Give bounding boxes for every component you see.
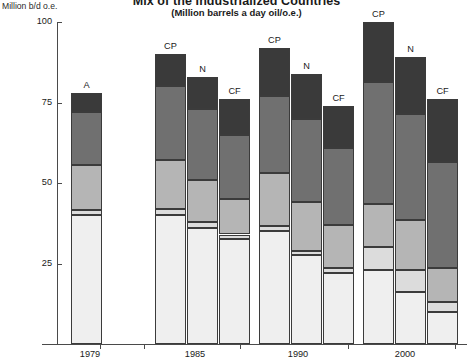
bar-segment-nuclear_hydro (427, 99, 458, 162)
bar-scenario-label-1979-A: A (57, 80, 116, 90)
bar-segment-oil (155, 215, 186, 344)
bar-segment-coal (291, 119, 322, 203)
bar-segment-oil (363, 270, 394, 344)
bar-segment-gas (219, 199, 250, 234)
bar-segment-coal (395, 114, 426, 220)
y-tick (57, 22, 62, 23)
bar-segment-coal (155, 86, 186, 160)
bar-segment-gas (291, 202, 322, 250)
bar-segment-oil_other (187, 222, 218, 228)
x-axis-line (42, 344, 467, 345)
bar-scenario-label-2000-CF: CF (413, 86, 472, 96)
bar-segment-nuclear_hydro (219, 99, 250, 134)
bar-segment-gas (363, 204, 394, 247)
bar-scenario-label-2000-CP: CP (349, 9, 408, 19)
bar-1990-CP (259, 48, 290, 344)
bar-segment-gas (395, 220, 426, 270)
bar-segment-oil_other (219, 235, 250, 240)
bar-segment-coal (427, 162, 458, 268)
x-axis-label-1979: 1979 (60, 349, 120, 359)
y-tick-label: 25 (0, 258, 52, 268)
bar-segment-nuclear_hydro (259, 48, 290, 96)
bar-scenario-label-1985-N: N (173, 64, 232, 74)
bar-segment-gas (71, 165, 102, 210)
bar-segment-oil_other (427, 302, 458, 312)
bar-segment-oil (291, 255, 322, 344)
bar-segment-oil (395, 292, 426, 344)
bar-segment-coal (71, 112, 102, 165)
bar-segment-oil_other (363, 247, 394, 270)
y-tick (57, 183, 62, 184)
y-tick-label: 100 (0, 16, 52, 26)
bar-segment-oil_other (155, 209, 186, 215)
y-tick-label: 50 (0, 177, 52, 187)
x-tick (348, 344, 349, 349)
bar-scenario-label-1985-CF: CF (205, 86, 264, 96)
bar-scenario-label-1990-CF: CF (309, 93, 368, 103)
bar-scenario-label-1990-N: N (277, 61, 336, 71)
x-axis-label-2000: 2000 (375, 349, 435, 359)
x-axis-label-1990: 1990 (268, 349, 328, 359)
bar-segment-oil_other (323, 268, 354, 273)
bar-segment-coal (363, 82, 394, 204)
bar-2000-N (395, 57, 426, 344)
y-tick-label: 75 (0, 97, 52, 107)
x-tick (240, 344, 241, 349)
bar-segment-gas (187, 180, 218, 222)
bar-segment-oil (219, 239, 250, 344)
bar-segment-gas (155, 160, 186, 208)
x-tick (144, 344, 145, 349)
chart-root: Mix of the Industrialized Countries (Mil… (0, 0, 473, 360)
y-tick (57, 264, 62, 265)
bar-segment-coal (219, 135, 250, 199)
bar-segment-oil (187, 228, 218, 344)
x-axis-label-1985: 1985 (165, 349, 225, 359)
bar-1990-CF (323, 106, 354, 344)
bar-2000-CP (363, 22, 394, 344)
bar-segment-oil_other (259, 226, 290, 231)
bar-segment-coal (259, 96, 290, 173)
bar-segment-coal (323, 148, 354, 225)
bar-segment-oil_other (395, 270, 426, 293)
bar-scenario-label-2000-N: N (381, 44, 440, 54)
x-tick (455, 344, 456, 349)
y-tick (57, 103, 62, 104)
bar-2000-CF (427, 99, 458, 344)
bar-segment-oil (259, 231, 290, 344)
bar-segment-gas (323, 225, 354, 268)
bar-segment-oil (71, 215, 102, 344)
bar-1985-CP (155, 54, 186, 344)
bar-segment-gas (259, 173, 290, 226)
bar-segment-oil (427, 312, 458, 344)
bar-segment-nuclear_hydro (71, 93, 102, 112)
bar-segment-nuclear_hydro (323, 106, 354, 148)
bar-segment-coal (187, 109, 218, 180)
bar-segment-oil_other (71, 210, 102, 215)
bar-segment-oil (323, 273, 354, 344)
bar-segment-oil_other (291, 251, 322, 256)
bar-1985-N (187, 77, 218, 344)
bar-scenario-label-1990-CP: CP (245, 35, 304, 45)
bar-scenario-label-1985-CP: CP (141, 41, 200, 51)
bar-1990-N (291, 74, 322, 344)
bar-1985-CF (219, 99, 250, 344)
y-axis-caption: Million b/d o.e. (2, 1, 57, 11)
bar-segment-gas (427, 268, 458, 302)
bar-1979-A (71, 93, 102, 344)
